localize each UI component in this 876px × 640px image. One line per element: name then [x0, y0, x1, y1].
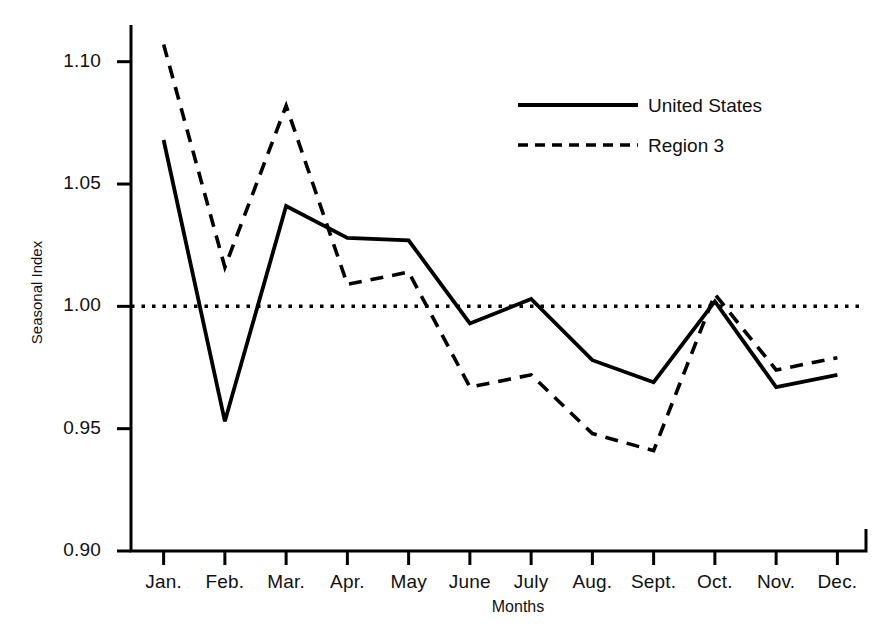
y-axis-ticks [117, 62, 131, 551]
y-tick-label: 0.90 [0, 539, 101, 561]
y-tick-label: 1.00 [0, 294, 101, 316]
y-axis-title: Seasonal Index [28, 213, 45, 373]
y-tick-label: 0.95 [0, 417, 101, 439]
legend-swatches [518, 105, 638, 145]
legend-label-united-states: United States [648, 95, 762, 117]
x-axis-ticks [164, 551, 838, 565]
y-tick-label: 1.05 [0, 172, 101, 194]
legend-label-region-3: Region 3 [648, 135, 724, 157]
seasonal-index-chart: 1.101.051.000.950.90 Jan.Feb.Mar.Apr.May… [0, 0, 876, 640]
x-axis-title: Months [458, 598, 578, 616]
x-tick-label-dec: Dec. [792, 571, 876, 593]
y-tick-label: 1.10 [0, 50, 101, 72]
